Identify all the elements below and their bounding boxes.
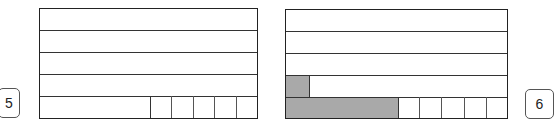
cell-divider (486, 97, 487, 118)
cell-divider (419, 97, 420, 118)
label-6-text: 6 (536, 96, 544, 112)
cell-divider (214, 96, 215, 118)
row-divider (286, 75, 507, 76)
row-divider (40, 30, 257, 31)
cell-divider (464, 97, 465, 118)
cell-divider (193, 96, 194, 118)
row-divider (286, 97, 507, 98)
label-5-text: 5 (5, 95, 13, 111)
cell-divider (398, 97, 399, 118)
cell-divider (236, 96, 237, 118)
cell-divider (150, 96, 151, 118)
row-divider (286, 31, 507, 32)
row-divider (40, 74, 257, 75)
row-divider (40, 96, 257, 97)
shaded-part-row-5 (286, 97, 398, 118)
shaded-cell-row-4 (286, 75, 309, 97)
row-divider (286, 53, 507, 54)
cell-divider (309, 75, 310, 97)
bar-grid-5 (39, 8, 258, 119)
label-5: 5 (0, 88, 20, 118)
row-divider (40, 52, 257, 53)
cell-divider (441, 97, 442, 118)
label-6: 6 (525, 89, 554, 119)
cell-divider (171, 96, 172, 118)
bar-grid-6 (285, 9, 508, 119)
